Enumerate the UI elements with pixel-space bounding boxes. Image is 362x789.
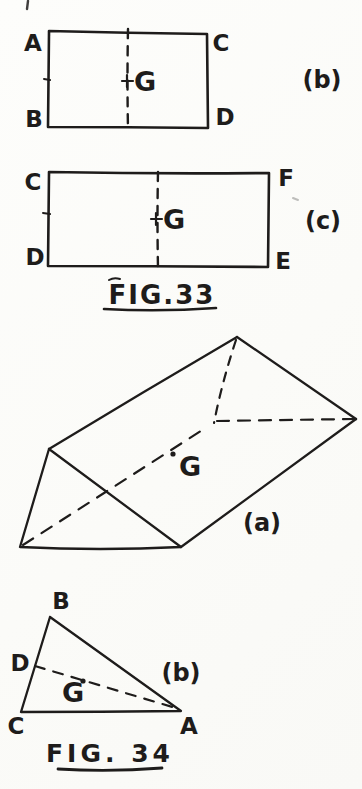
prism-hidden-axis-edge: [23, 427, 207, 545]
rect-b-corner-label-c: C: [213, 30, 230, 56]
prism-back-right-edge: [237, 337, 356, 419]
triangle-outline: [21, 617, 181, 712]
prism-centroid-label: G: [179, 451, 201, 482]
prism-hidden-back-vertical-edge: [214, 340, 236, 423]
fig33-part-c-label: (c): [305, 207, 341, 235]
rect-b-left-edge-tick: [44, 79, 50, 80]
prism-front-triangle: [20, 449, 181, 549]
rect-b-centroid-plus-icon: [122, 75, 133, 87]
triangle-vertex-label-c: C: [8, 713, 25, 739]
triangle-vertex-label-b: B: [52, 588, 70, 614]
prism-hidden-back-horizontal-edge: [217, 419, 354, 421]
artifact-smudge-near-c-label: [293, 198, 298, 200]
fig34-prism: G: [20, 337, 356, 549]
fig34-caption: FIG. 34: [46, 739, 174, 768]
rect-c-corner-label-d: D: [25, 244, 44, 270]
rect-c-left-edge-tick: [43, 213, 50, 214]
rect-c-corner-label-e: E: [275, 248, 291, 274]
geometry-figures-canvas: A C B D G (b) C F D E G (c) FIG.33: [0, 0, 362, 789]
fig33-rectangle-c: C F D E G: [25, 165, 294, 274]
triangle-vertex-label-a: A: [180, 713, 198, 739]
rect-b-corner-label-a: A: [24, 30, 42, 56]
scanned-textbook-page: A C B D G (b) C F D E G (c) FIG.33: [0, 0, 362, 789]
prism-centroid-dot: [170, 451, 175, 456]
fig34-part-b-label: (b): [161, 659, 200, 687]
rect-b-corner-label-d: D: [215, 104, 234, 130]
fig34-group: G (a) B C A D G (b) FIG. 34: [8, 337, 356, 770]
triangle-centroid-label: G: [62, 677, 84, 708]
rect-b-corner-label-b: B: [25, 106, 43, 132]
fig33-caption: FIG.33: [109, 280, 216, 310]
triangle-median-da: [35, 666, 179, 709]
fig33-part-b-label: (b): [302, 66, 341, 94]
prism-top-edge: [49, 337, 237, 449]
artifact-top-left-mark: [27, 1, 28, 9]
rect-c-centroid-label: G: [163, 204, 185, 235]
fig34-part-a-label: (a): [243, 509, 281, 537]
rect-c-corner-label-c: C: [25, 169, 42, 195]
rect-c-centroid-plus-icon: [151, 213, 162, 225]
fig33-rectangle-b: A C B D G: [24, 29, 234, 132]
rect-b-centroid-label: G: [134, 66, 156, 97]
fig34-caption-underline: [58, 768, 162, 770]
triangle-midpoint-label-d: D: [10, 650, 29, 676]
rect-c-corner-label-f: F: [278, 165, 294, 191]
fig33-group: A C B D G (b) C F D E G (c) FIG.33: [24, 29, 341, 310]
